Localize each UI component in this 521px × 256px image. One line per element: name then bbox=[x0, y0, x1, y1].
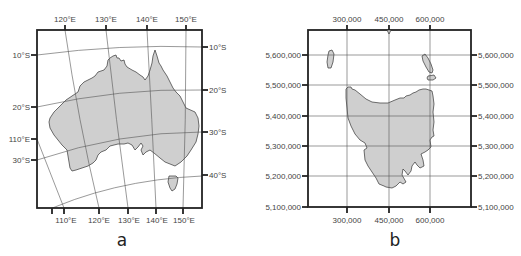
panel-b: 300,000 450,000 600,000 300,000 450,000 … bbox=[265, 15, 514, 250]
label-left-5100000: 5,100,000 bbox=[265, 203, 301, 212]
label-right-5300000: 5,300,000 bbox=[478, 142, 514, 151]
label-right-5500000: 5,500,000 bbox=[478, 81, 514, 90]
label-bottom-150e: 150°E bbox=[173, 216, 195, 225]
label-bottom-450000: 450,000 bbox=[375, 216, 404, 225]
label-top-130e: 130°E bbox=[95, 15, 117, 24]
label-right-10s: 10°S bbox=[209, 43, 226, 52]
label-left-5300000: 5,300,000 bbox=[265, 142, 301, 151]
label-right-30s: 30°S bbox=[209, 128, 226, 137]
label-right-5600000: 5,600,000 bbox=[478, 51, 514, 60]
label-left-5200000: 5,200,000 bbox=[265, 172, 301, 181]
label-bottom-110e: 110°E bbox=[55, 216, 76, 225]
meridian-110e bbox=[37, 139, 64, 208]
label-right-40s: 40°S bbox=[209, 171, 226, 180]
tasmania-map-area bbox=[308, 30, 471, 207]
label-left-20s: 20°S bbox=[13, 103, 30, 112]
small-island-top bbox=[387, 30, 391, 34]
label-left-10s: 10°S bbox=[13, 51, 30, 60]
label-left-30s: 30°S bbox=[13, 156, 30, 165]
label-bottom-130e: 130°E bbox=[118, 216, 140, 225]
label-right-5200000: 5,200,000 bbox=[478, 172, 514, 181]
label-top-600000: 600,000 bbox=[416, 15, 445, 24]
label-top-150e: 150°E bbox=[175, 15, 197, 24]
tasmania-mainland bbox=[346, 87, 434, 188]
parallel-10s bbox=[37, 46, 202, 55]
king-island bbox=[327, 50, 334, 68]
label-bottom-300000: 300,000 bbox=[333, 216, 362, 225]
label-top-450000: 450,000 bbox=[375, 15, 404, 24]
panel-a: 120°E 130°E 140°E 150°E 110°E 120°E 130°… bbox=[9, 15, 227, 250]
label-bottom-140e: 140°E bbox=[146, 216, 168, 225]
figure: 120°E 130°E 140°E 150°E 110°E 120°E 130°… bbox=[0, 0, 521, 256]
label-left-110e: 110°E bbox=[9, 135, 30, 144]
label-left-5400000: 5,400,000 bbox=[265, 112, 301, 121]
cape-barren-island bbox=[427, 75, 436, 80]
australia-landmass bbox=[49, 50, 199, 171]
australia-map-area bbox=[37, 30, 202, 215]
label-top-120e: 120°E bbox=[54, 15, 76, 24]
caption-a: a bbox=[117, 230, 127, 250]
label-bottom-600000: 600,000 bbox=[416, 216, 445, 225]
caption-b: b bbox=[390, 230, 401, 250]
label-left-5600000: 5,600,000 bbox=[265, 51, 301, 60]
label-right-5400000: 5,400,000 bbox=[478, 112, 514, 121]
label-left-5500000: 5,500,000 bbox=[265, 81, 301, 90]
flinders-island bbox=[422, 54, 433, 73]
label-top-140e: 140°E bbox=[136, 15, 158, 24]
label-bottom-120e: 120°E bbox=[88, 216, 110, 225]
label-right-20s: 20°S bbox=[209, 86, 226, 95]
label-top-300000: 300,000 bbox=[333, 15, 362, 24]
label-right-5100000: 5,100,000 bbox=[478, 203, 514, 212]
